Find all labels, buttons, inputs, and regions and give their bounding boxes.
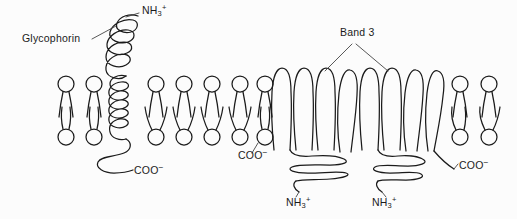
- lipid-upper-3: [148, 76, 164, 117]
- band3-right-domain: [360, 68, 454, 192]
- nh3-terminus-band3-right: NH3+: [372, 197, 397, 208]
- lipid-lower-6: [229, 107, 251, 145]
- lipid-upper-7: [257, 76, 273, 117]
- lipid-lower-5: [201, 107, 223, 145]
- glycophorin-protein: [97, 15, 138, 173]
- coo-terminus-glycophorin: COO−: [134, 165, 164, 176]
- glycophorin-label: Glycophorin: [22, 33, 80, 44]
- lipid-lower-2: [86, 107, 102, 145]
- coo-band3-right-leader: [454, 164, 458, 169]
- lipid-upper-6: [232, 76, 248, 117]
- band3-leader-right: [356, 44, 388, 71]
- lipid-lower-3: [145, 107, 167, 145]
- lipid-upper-4: [176, 76, 192, 117]
- lipid-upper-9: [481, 76, 497, 117]
- lipid-lower-4: [173, 107, 195, 145]
- glycophorin-leader: [92, 26, 116, 39]
- membrane-diagram: Glycophorin Band 3 NH3+ COO− COO− NH3+ N…: [0, 0, 517, 219]
- band3-leader-left: [325, 44, 352, 71]
- lipid-upper-2: [86, 76, 102, 117]
- lipid-lower-1: [58, 107, 74, 145]
- band3-label: Band 3: [340, 27, 374, 38]
- nh3-terminus-glycophorin: NH3+: [142, 5, 167, 16]
- lipid-upper-1: [58, 76, 74, 117]
- band3-left-domain: [272, 68, 358, 192]
- coo-terminus-band3-left: COO−: [238, 150, 268, 161]
- coo-terminus-band3-right: COO−: [459, 160, 489, 171]
- nh3-terminus-band3-left: NH3+: [286, 197, 311, 208]
- lipid-lower-7: [257, 107, 273, 145]
- lipid-upper-5: [204, 76, 220, 117]
